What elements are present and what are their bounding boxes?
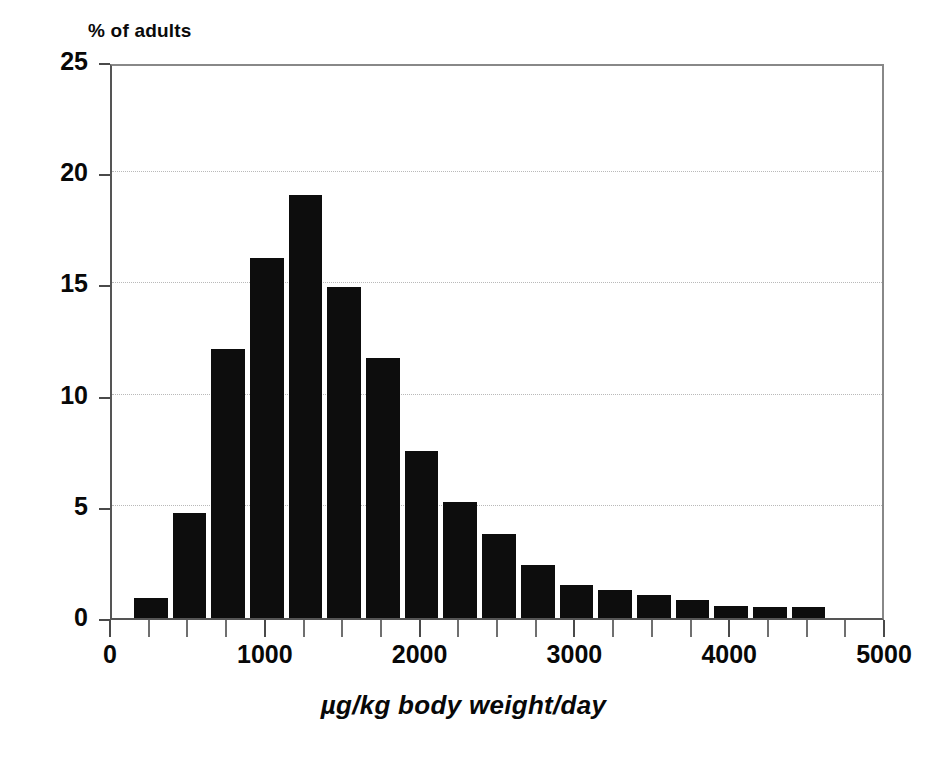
x-tick-minor <box>457 620 459 637</box>
x-tick-label: 3000 <box>547 642 603 667</box>
bar <box>482 534 516 619</box>
x-tick-major <box>728 620 730 637</box>
y-tick <box>99 508 110 510</box>
y-tick-label: 0 <box>74 605 88 630</box>
x-tick-major <box>573 620 575 637</box>
y-axis-label: % of adults <box>88 20 192 42</box>
x-tick-minor <box>225 620 227 637</box>
x-tick-minor <box>612 620 614 637</box>
bar-series <box>112 66 882 618</box>
bar <box>250 258 284 618</box>
plot-area <box>110 64 884 620</box>
bar <box>134 598 168 618</box>
x-tick-minor <box>767 620 769 637</box>
x-tick-minor <box>148 620 150 637</box>
x-tick-major <box>264 620 266 637</box>
x-tick-major <box>419 620 421 637</box>
x-tick-minor <box>341 620 343 637</box>
bar <box>637 595 671 618</box>
x-tick-label: 2000 <box>392 642 448 667</box>
bar <box>560 585 594 618</box>
x-tick-label: 1000 <box>237 642 293 667</box>
x-axis: 010002000300040005000 <box>110 620 884 700</box>
bar <box>366 358 400 618</box>
y-tick-label: 20 <box>60 160 88 185</box>
bar <box>173 513 207 618</box>
y-tick-label: 15 <box>60 271 88 296</box>
y-tick-label: 25 <box>60 49 88 74</box>
x-axis-label: µg/kg body weight/day <box>0 690 927 721</box>
y-axis: 0510152025 <box>0 64 110 620</box>
bar <box>753 607 787 618</box>
x-tick-minor <box>806 620 808 637</box>
x-tick-minor <box>380 620 382 637</box>
bar <box>405 451 439 618</box>
bar <box>443 502 477 618</box>
y-tick <box>99 397 110 399</box>
chart-figure: % of adults 0510152025 01000200030004000… <box>0 0 927 766</box>
x-tick-label: 4000 <box>701 642 757 667</box>
bar <box>714 606 748 618</box>
y-tick-label: 5 <box>74 494 88 519</box>
bar <box>211 349 245 618</box>
bar <box>792 607 826 618</box>
x-tick-minor <box>303 620 305 637</box>
x-tick-minor <box>844 620 846 637</box>
bar <box>289 195 323 618</box>
x-tick-label: 5000 <box>856 642 912 667</box>
bar <box>521 565 555 618</box>
y-tick <box>99 285 110 287</box>
y-tick <box>99 63 110 65</box>
bar <box>327 287 361 618</box>
x-tick-major <box>883 620 885 637</box>
x-tick-minor <box>535 620 537 637</box>
y-tick-label: 10 <box>60 383 88 408</box>
bar <box>676 600 710 618</box>
y-tick <box>99 174 110 176</box>
x-tick-minor <box>651 620 653 637</box>
x-tick-major <box>109 620 111 637</box>
x-tick-label: 0 <box>103 642 117 667</box>
x-tick-minor <box>186 620 188 637</box>
bar <box>598 590 632 618</box>
x-tick-minor <box>496 620 498 637</box>
x-tick-minor <box>690 620 692 637</box>
